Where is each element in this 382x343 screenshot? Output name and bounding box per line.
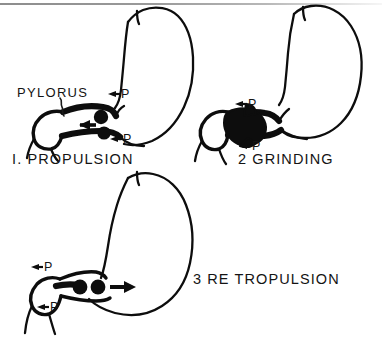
- panel3-duodenum-distal: [25, 306, 32, 333]
- panel3-bolus-particle-1: [73, 280, 88, 295]
- panel1-antrum-lower-wall: [62, 131, 120, 137]
- panel1-duodenal-bulb: [33, 111, 63, 149]
- panel2-lesser-curve-upper: [279, 14, 294, 105]
- panel1-fundus-body-outline: [124, 8, 193, 145]
- gastric-motility-figure: PYLORUS P P P P P P I. PROPULSION 2 GRIN…: [0, 0, 382, 343]
- panel1-flow-arrow-head: [79, 120, 90, 130]
- panel1-bolus-particle-1: [94, 110, 108, 124]
- panel3-pressure-arrow-upper-head: [31, 264, 39, 270]
- panel3-pressure-arrow-lower-head: [37, 304, 45, 310]
- panel3-pressure-label-lower: P: [50, 301, 58, 314]
- panel2-antrum-upper-continuation: [279, 109, 289, 121]
- panel3-antrum-upper-wall: [60, 272, 106, 279]
- panel2-fundus-body-outline: [283, 6, 362, 138]
- panel2-duodenum-distal: [195, 141, 202, 161]
- panel1-pressure-label-upper: P: [121, 88, 129, 101]
- panel3-greater-curve-outline: [89, 173, 192, 315]
- panel1-antrum-upper-wall: [63, 106, 116, 116]
- panel3-antrum-lower-wall: [61, 296, 110, 301]
- panel1-pressure-arrow-lower-head: [110, 136, 118, 142]
- pylorus-label: PYLORUS: [17, 86, 88, 99]
- panel1-bolus-particle-2: [97, 126, 110, 139]
- panel-caption-grinding: 2 GRINDING: [238, 152, 334, 167]
- panel2-pressure-arrow-upper-head: [235, 101, 243, 107]
- diagram-canvas: [0, 0, 382, 343]
- panel3-flow-arrow-head: [124, 281, 136, 293]
- panel1-antrum-upper-continuation: [116, 106, 124, 116]
- panel-grinding-drawing: [195, 6, 362, 164]
- panel1-pressure-arrow-upper-head: [108, 91, 116, 97]
- panel-caption-propulsion: I. PROPULSION: [12, 152, 133, 167]
- panel2-duodenum-lower-edge: [219, 149, 226, 164]
- panel3-duodenum-lower-edge: [49, 314, 55, 334]
- panel2-cardia-notch: [303, 7, 305, 20]
- panel2-pressure-label-upper: P: [248, 98, 256, 111]
- panel-caption-retropulsion: 3 RE TROPULSION: [193, 272, 340, 287]
- panel3-pressure-label-upper: P: [44, 261, 52, 274]
- panel3-lesser-curve: [101, 178, 128, 278]
- panel3-bolus-particle-2: [91, 280, 106, 295]
- panel1-pressure-label-lower: P: [123, 133, 131, 146]
